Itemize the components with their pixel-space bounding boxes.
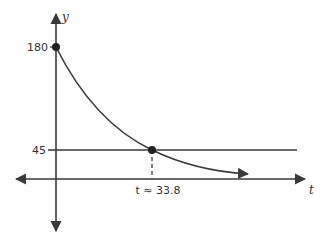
y-tick-label-180: 180 xyxy=(27,41,48,54)
intersection-annotation: t ≈ 33.8 xyxy=(135,184,180,197)
point-intersection xyxy=(148,146,156,154)
decay-curve xyxy=(56,47,248,174)
y-tick-label-45: 45 xyxy=(32,144,46,157)
chart-canvas: 180 45 y t t ≈ 33.8 xyxy=(0,0,324,244)
x-axis-label: t xyxy=(309,183,314,197)
y-axis-label: y xyxy=(61,10,69,24)
point-180 xyxy=(52,43,60,51)
